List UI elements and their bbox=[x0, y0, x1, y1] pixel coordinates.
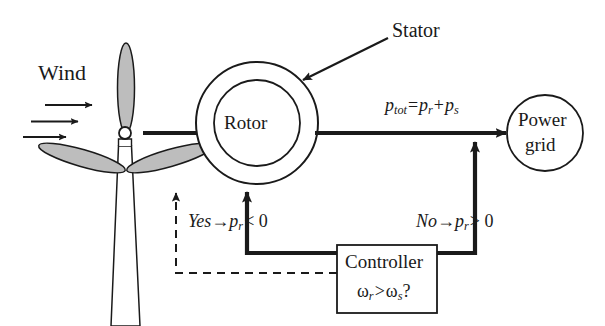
turbine-blade-left bbox=[36, 137, 127, 178]
p-tot-symbol: p bbox=[385, 95, 394, 115]
equals-sign: = bbox=[407, 95, 419, 115]
no-text: No bbox=[416, 211, 437, 231]
question-mark: ? bbox=[402, 281, 410, 301]
yes-text: Yes bbox=[188, 211, 211, 231]
power-flow-equation: ptot=pr+ps bbox=[385, 96, 459, 117]
yes-branch-label: Yes→pr< 0 bbox=[188, 212, 269, 233]
p-s-subscript: s bbox=[454, 103, 459, 117]
no-branch-line bbox=[437, 142, 475, 253]
wind-label: Wind bbox=[38, 62, 86, 84]
yes-p-symbol: p bbox=[229, 211, 238, 231]
stator-callout-arrow-icon bbox=[303, 38, 388, 80]
no-branch-label: No→pr> 0 bbox=[416, 212, 494, 233]
yes-comparison: < 0 bbox=[243, 211, 269, 231]
stator-label: Stator bbox=[392, 20, 440, 40]
power-grid-circle bbox=[507, 95, 583, 171]
no-arrow-glyph: → bbox=[437, 211, 455, 231]
wind-arrow-icon bbox=[23, 105, 92, 137]
yes-arrow-glyph: → bbox=[211, 211, 229, 231]
wind-turbine-control-diagram: Wind Stator Rotor ptot=pr+ps Yes→pr< 0 N… bbox=[0, 0, 605, 326]
controller-condition-label: ωr>ωs? bbox=[357, 282, 410, 303]
diagram-canvas bbox=[0, 0, 605, 326]
no-p-symbol: p bbox=[455, 211, 464, 231]
wind-turbine-icon bbox=[36, 43, 215, 326]
omega-r-symbol: ω bbox=[357, 281, 369, 301]
dashed-feedback-arrow-icon bbox=[176, 193, 337, 273]
turbine-blade-up bbox=[118, 43, 135, 133]
p-s-symbol: p bbox=[445, 95, 454, 115]
no-comparison: > 0 bbox=[469, 211, 495, 231]
turbine-hub bbox=[119, 127, 131, 139]
rotor-label: Rotor bbox=[224, 113, 267, 132]
plus-sign: + bbox=[433, 95, 445, 115]
omega-r-subscript: r bbox=[369, 289, 374, 303]
p-r-symbol: p bbox=[419, 95, 428, 115]
greater-than-sign: > bbox=[374, 281, 386, 301]
power-grid-label-line1: Power bbox=[518, 110, 567, 129]
omega-s-symbol: ω bbox=[386, 281, 398, 301]
p-tot-subscript: tot bbox=[394, 103, 407, 117]
controller-label: Controller bbox=[345, 252, 423, 271]
power-grid-label-line2: grid bbox=[525, 135, 556, 154]
